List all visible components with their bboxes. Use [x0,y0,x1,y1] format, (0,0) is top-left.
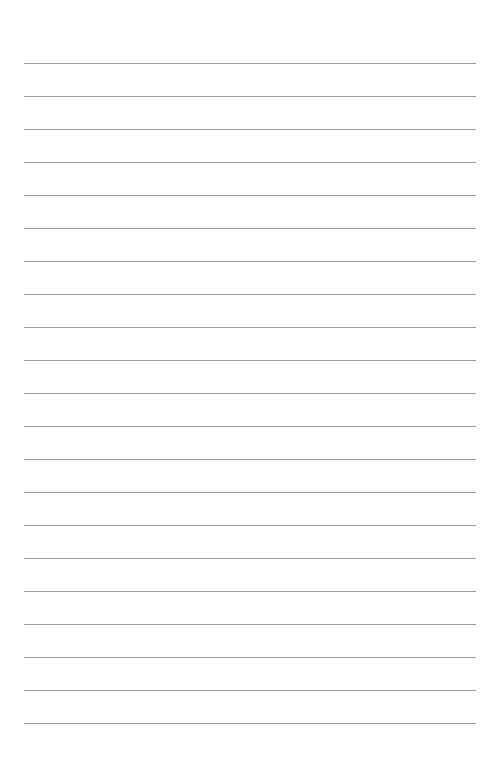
ruled-line [24,525,476,526]
ruled-line [24,492,476,493]
ruled-line [24,261,476,262]
ruled-line [24,690,476,691]
ruled-line [24,624,476,625]
ruled-line [24,657,476,658]
lined-page [0,0,494,773]
ruled-line [24,327,476,328]
ruled-line [24,591,476,592]
ruled-line [24,96,476,97]
ruled-line [24,558,476,559]
ruled-line [24,129,476,130]
ruled-line [24,195,476,196]
ruled-line [24,63,476,64]
ruled-line [24,228,476,229]
ruled-line [24,723,476,724]
ruled-line [24,426,476,427]
ruled-line [24,393,476,394]
ruled-line [24,459,476,460]
ruled-line [24,294,476,295]
ruled-line [24,162,476,163]
ruled-line [24,360,476,361]
